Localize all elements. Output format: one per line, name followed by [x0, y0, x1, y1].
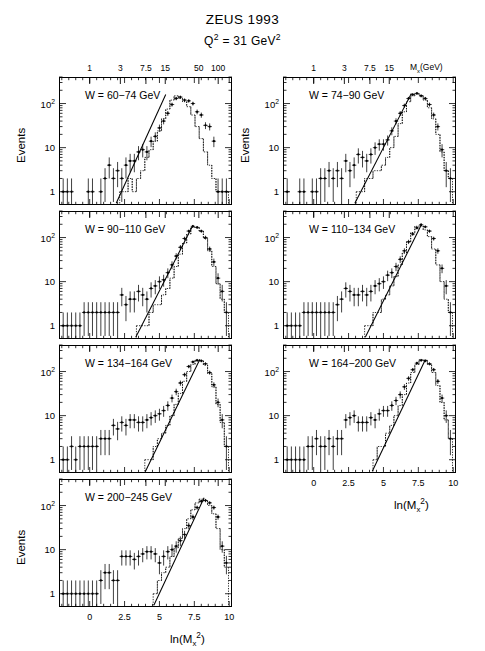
y-tick-label: 10 — [253, 410, 279, 421]
axis-ticks — [59, 211, 232, 339]
plot-content — [283, 211, 456, 339]
y-tick-label: 10 — [29, 142, 55, 153]
mc-histogram — [356, 93, 452, 191]
y-tick-label: 102 — [29, 232, 55, 244]
y-tick-label: 1 — [29, 588, 55, 599]
top-axis-ticks — [314, 77, 390, 84]
y-tick-label: 1 — [29, 454, 55, 465]
y-tick-label: 102 — [29, 366, 55, 378]
top-axis-ticks — [90, 211, 218, 218]
subtitle-gev-exponent: 2 — [276, 32, 281, 42]
y-tick-label: 102 — [253, 98, 279, 110]
y-axis-label: Events — [15, 530, 27, 565]
plot-content — [59, 77, 232, 205]
y-tick-label: 102 — [253, 232, 279, 244]
x-tick-label: 10 — [209, 612, 249, 622]
y-tick-label: 10 — [29, 410, 55, 421]
fit-line — [372, 360, 425, 471]
plot-panel-7: W = 200−245 GeV11010202.557.510ln(Mx2)Ev… — [59, 479, 232, 607]
top-axis-ticks — [90, 77, 218, 84]
mc-histogram — [136, 227, 228, 325]
fit-line — [365, 225, 421, 337]
plot-content — [283, 345, 456, 473]
y-tick-label: 1 — [253, 320, 279, 331]
plot-panel-4: W = 110−134 GeV110102 — [283, 211, 456, 339]
plot-content — [59, 479, 232, 607]
y-tick-label: 10 — [29, 544, 55, 555]
y-tick-label: 102 — [29, 500, 55, 512]
y-tick-label: 10 — [253, 142, 279, 153]
data-points — [285, 92, 453, 205]
figure-subtitle: Q2 = 31 GeV2 — [0, 32, 485, 48]
mc-histogram-risers — [145, 360, 229, 473]
x-axis-label: ln(Mx2) — [394, 497, 429, 514]
subtitle-q: Q — [204, 34, 214, 48]
data-points — [61, 225, 229, 339]
top-axis-ticks — [314, 345, 390, 352]
data-points — [61, 359, 229, 473]
top-tick-label: 15 — [369, 63, 409, 73]
top-axis-ticks — [90, 345, 218, 352]
x-tick-label: 10 — [433, 478, 473, 488]
plot-panel-2: W = 74−90 GeV110102137.515Mx(GeV)Events — [283, 77, 456, 205]
plot-content — [59, 345, 232, 473]
top-axis-label: Mx(GeV) — [410, 62, 443, 74]
data-points — [61, 499, 229, 607]
axis-ticks — [59, 479, 232, 607]
subtitle-value: = 31 GeV — [219, 34, 276, 48]
fit-line — [136, 225, 193, 337]
plot-panel-5: W = 134−164 GeV110102 — [59, 345, 232, 473]
y-tick-label: 1 — [29, 186, 55, 197]
y-tick-label: 10 — [29, 276, 55, 287]
y-tick-label: 102 — [253, 366, 279, 378]
y-tick-label: 1 — [253, 186, 279, 197]
y-axis-label: Events — [239, 128, 251, 163]
axis-ticks — [283, 77, 456, 205]
y-tick-label: 10 — [253, 276, 279, 287]
figure-title: ZEUS 1993 — [0, 12, 485, 27]
plot-content — [283, 77, 456, 205]
plot-panel-1: W = 60−74 GeV110102137.51550100Events — [59, 77, 232, 205]
top-axis-ticks — [90, 479, 218, 486]
plot-content — [59, 211, 232, 339]
figure-root: ZEUS 1993 Q2 = 31 GeV2 W = 60−74 GeV1101… — [0, 0, 485, 651]
mc-histogram-risers — [373, 360, 453, 473]
axis-ticks — [59, 77, 232, 205]
plot-panel-6: W = 164−200 GeV11010202.557.510ln(Mx2) — [283, 345, 456, 473]
fit-line — [146, 359, 200, 471]
top-axis-ticks — [314, 211, 390, 218]
x-axis-label: ln(Mx2) — [170, 631, 205, 648]
y-tick-label: 1 — [253, 454, 279, 465]
y-tick-label: 102 — [29, 98, 55, 110]
mc-histogram-risers — [120, 96, 229, 205]
plot-panel-3: W = 90−110 GeV110102 — [59, 211, 232, 339]
y-axis-label: Events — [15, 128, 27, 163]
data-points — [285, 223, 453, 338]
top-tick-label: 100 — [198, 63, 238, 73]
y-tick-label: 1 — [29, 320, 55, 331]
fit-line — [154, 498, 204, 605]
mc-histogram — [120, 96, 229, 192]
data-points — [285, 359, 453, 473]
mc-histogram-risers — [153, 499, 228, 607]
fit-line — [116, 95, 166, 204]
